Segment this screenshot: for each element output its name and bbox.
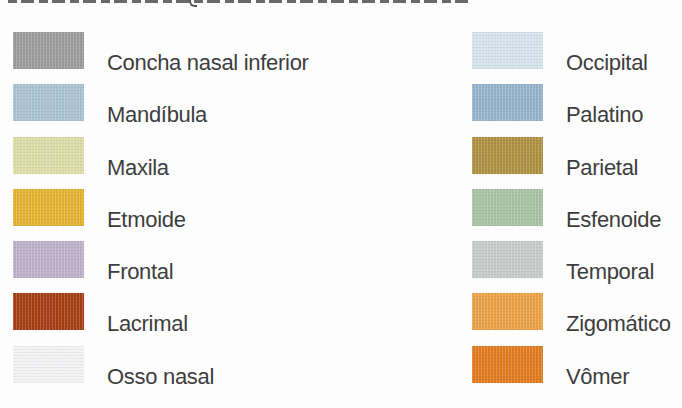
- legend-column-right: Occipital Palatino Parietal Esfenoide Te…: [472, 32, 671, 398]
- legend-label: Esfenoide: [566, 209, 661, 231]
- legend-label: Occipital: [566, 52, 648, 74]
- legend-label: Frontal: [107, 261, 173, 283]
- legend-item: Zigomático: [472, 293, 671, 330]
- legend-label: Palatino: [566, 104, 643, 126]
- legend-item: Maxila: [13, 137, 309, 174]
- color-swatch: [472, 346, 543, 383]
- color-swatch: [13, 346, 84, 383]
- legend-label: Concha nasal inferior: [107, 52, 309, 74]
- legend-label: Temporal: [566, 261, 654, 283]
- legend-label: Mandíbula: [107, 104, 207, 126]
- legend-label: Lacrimal: [107, 313, 188, 335]
- legend-label: Maxila: [107, 157, 169, 179]
- legend-item: Etmoide: [13, 189, 309, 226]
- color-swatch: [13, 293, 84, 330]
- legend-item: Temporal: [472, 241, 671, 278]
- legend-panel: Concha nasal inferior Mandíbula Maxila E…: [0, 0, 682, 408]
- legend-label: Vômer: [566, 366, 629, 388]
- color-swatch: [472, 84, 543, 121]
- legend-item: Esfenoide: [472, 189, 671, 226]
- legend-item: Mandíbula: [13, 84, 309, 121]
- legend-item: Frontal: [13, 241, 309, 278]
- legend-label: Etmoide: [107, 209, 186, 231]
- color-swatch: [13, 189, 84, 226]
- color-swatch: [13, 241, 84, 278]
- color-swatch: [472, 189, 543, 226]
- legend-item: Occipital: [472, 32, 671, 69]
- clipped-title-fragment: [8, 0, 470, 3]
- legend-column-left: Concha nasal inferior Mandíbula Maxila E…: [13, 32, 309, 398]
- legend-label: Parietal: [566, 157, 638, 179]
- color-swatch: [472, 241, 543, 278]
- legend-item: Osso nasal: [13, 346, 309, 383]
- color-swatch: [472, 32, 543, 69]
- color-swatch: [472, 137, 543, 174]
- legend-item: Concha nasal inferior: [13, 32, 309, 69]
- legend-label: Zigomático: [566, 313, 671, 335]
- color-swatch: [13, 137, 84, 174]
- legend-label: Osso nasal: [107, 366, 214, 388]
- clipped-title-cedilla-fragment: [189, 0, 197, 7]
- color-swatch: [13, 32, 84, 69]
- legend-item: Lacrimal: [13, 293, 309, 330]
- legend-item: Parietal: [472, 137, 671, 174]
- color-swatch: [13, 84, 84, 121]
- color-swatch: [472, 293, 543, 330]
- legend-item: Vômer: [472, 346, 671, 383]
- legend-item: Palatino: [472, 84, 671, 121]
